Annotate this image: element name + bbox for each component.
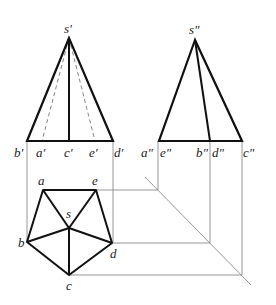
label-s-side: s" [189,22,200,37]
label-b-side: b" [196,145,209,160]
label-a-top: a [38,173,45,188]
label-a-side: a" [141,145,154,160]
label-e-front: e' [89,145,98,160]
edge-sb-top [27,228,69,242]
label-e-top: e [92,173,98,188]
label-c-top: c [66,278,72,293]
projection-diagram: s' s" b' a' c' e' d' a" e" b" d" c" a e … [0,0,276,305]
label-d-top: d [110,246,117,261]
side-view [159,40,242,141]
edge-sd-top [69,228,112,243]
top-view [27,190,112,275]
hidden-edge-sa [42,38,69,141]
label-s-top: s [66,206,71,221]
label-a-front: a' [36,145,46,160]
label-s-front: s' [64,21,72,36]
label-b-top: b [18,235,25,250]
label-c-front: c' [64,145,73,160]
label-d-front: d' [114,145,124,160]
label-d-side: d" [212,145,225,160]
label-e-side: e" [160,145,172,160]
miter-line-45 [145,177,251,285]
front-view [27,38,113,141]
projection-lines [27,141,251,285]
side-outline [159,40,242,141]
label-b-front: b' [14,145,24,160]
edge-se-top [69,190,96,228]
label-c-side: c" [243,145,255,160]
